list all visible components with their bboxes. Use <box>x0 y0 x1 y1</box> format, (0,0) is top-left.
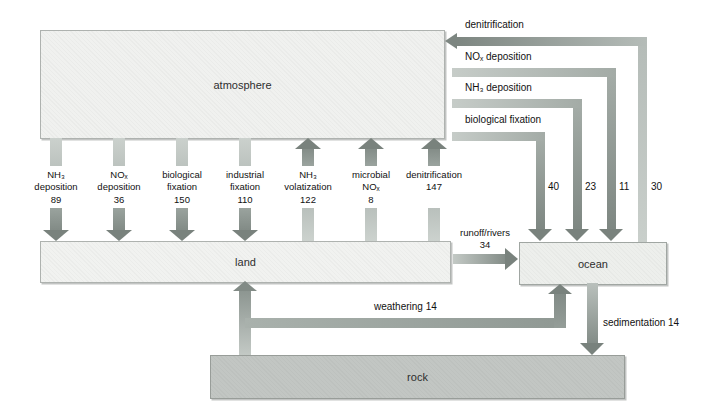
arrow-shaft <box>428 208 440 241</box>
arrow-shaft <box>536 141 545 229</box>
arrow-down-icon <box>169 230 195 241</box>
arrow-up-icon <box>358 138 384 149</box>
arrow-up-icon <box>421 138 447 149</box>
arrow-shaft <box>176 208 188 230</box>
atmosphere-box: atmosphere <box>40 30 445 139</box>
arrow-right-icon <box>505 248 518 270</box>
arrow-shaft <box>365 149 377 166</box>
biological-fixation-ocean-value: 40 <box>548 181 559 192</box>
arrow-shaft <box>573 108 582 229</box>
land-box: land <box>40 241 451 283</box>
biological-fixation-ocean-label: biological fixation <box>465 114 541 125</box>
sedimentation-label: sedimentation 14 <box>603 317 679 328</box>
weathering-label: weathering 14 <box>374 301 437 312</box>
land-label: land <box>235 256 256 268</box>
arrow-shaft <box>113 138 125 166</box>
arrow-left-icon <box>445 33 457 49</box>
arrow-shaft <box>302 208 314 241</box>
arrow-shaft <box>453 254 505 264</box>
arrow-shaft <box>113 208 125 230</box>
nh3-deposition-ocean-value: 23 <box>585 181 596 192</box>
rock-box: rock <box>210 355 625 399</box>
arrow-shaft <box>638 46 647 242</box>
arrow-down-icon <box>43 230 69 241</box>
arrow-down-icon <box>580 343 604 355</box>
arrow-shaft <box>452 68 616 77</box>
arrow-down-icon <box>106 230 132 241</box>
arrow-shaft <box>452 132 545 141</box>
atmosphere-label: atmosphere <box>213 79 271 91</box>
arrow-shaft <box>302 149 314 166</box>
flux-denitrification-land: denitrification 147 <box>389 138 479 241</box>
arrow-down-icon <box>565 229 589 241</box>
arrow-shaft <box>452 99 582 108</box>
nitrogen-cycle-diagram: atmosphere land ocean rock NH₃ depositio… <box>0 0 712 420</box>
arrow-shaft <box>50 208 62 230</box>
rock-label: rock <box>407 371 428 383</box>
ocean-box: ocean <box>519 242 667 285</box>
arrow-down-icon <box>599 229 623 241</box>
arrow-shaft <box>457 37 647 46</box>
arrow-up-icon <box>295 138 321 149</box>
arrow-shaft <box>607 77 616 229</box>
arrow-down-icon <box>528 229 552 241</box>
arrow-shaft <box>239 208 251 230</box>
arrow-shaft <box>245 318 566 328</box>
arrow-shaft <box>587 283 598 343</box>
arrow-shaft <box>428 149 440 166</box>
arrow-up-icon <box>548 284 572 294</box>
arrow-shaft <box>176 138 188 166</box>
nox-deposition-ocean-value: 11 <box>619 181 629 192</box>
arrow-up-icon <box>233 281 257 291</box>
arrow-shaft <box>554 294 566 328</box>
nh3-deposition-ocean-label: NH₃ deposition <box>465 82 532 93</box>
denitrification-ocean-value: 30 <box>651 181 662 192</box>
arrow-shaft <box>50 138 62 166</box>
denitrification-ocean-label: denitrification <box>465 19 524 30</box>
ocean-label: ocean <box>578 258 608 270</box>
arrow-shaft <box>239 138 251 166</box>
arrow-shaft <box>365 208 377 241</box>
flux-label: denitrification 147 <box>380 169 488 194</box>
arrow-down-icon <box>232 230 258 241</box>
nox-deposition-ocean-label: NOₓ deposition <box>465 51 532 62</box>
